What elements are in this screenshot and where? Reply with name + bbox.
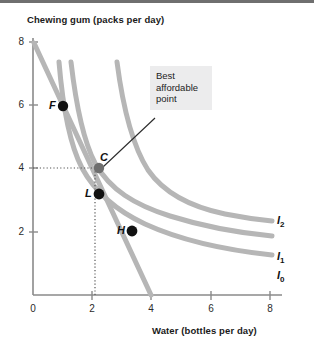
data-point-l [94,189,105,200]
callout-text: Best affordable point [156,70,207,105]
x-tick-label-2: 2 [84,303,100,314]
point-label-l: L [85,187,92,199]
x-tick-label-0: 0 [25,303,41,314]
y-tick-label-6: 6 [8,99,24,110]
curve-label-i2: I2 [277,214,285,229]
curve-label-i1-sub: 1 [280,256,284,265]
y-tick-label-8: 8 [8,36,24,47]
y-tick-label-4: 4 [8,162,24,173]
callout-best-affordable-point: Best affordable point [150,66,212,110]
data-point-f [58,101,68,111]
chart-canvas [0,0,314,348]
x-axis-title: Water (bottles per day) [152,325,257,336]
data-point-h [127,226,138,237]
point-label-c: C [100,151,108,163]
data-point-c [94,163,104,173]
y-tick-label-2: 2 [8,226,24,237]
curve-label-i0-sub: 0 [280,275,284,284]
point-label-f: F [49,99,56,111]
indifference-curve-figure: Chewing gum (packs per day) Water (bottl… [0,0,314,348]
y-axis-title: Chewing gum (packs per day) [27,14,164,25]
curve-label-i0: I0 [277,269,285,284]
curve-label-i2-sub: 2 [280,220,284,229]
budget-line [34,43,151,295]
x-tick-label-8: 8 [262,303,278,314]
curve-label-i1: I1 [277,250,285,265]
x-tick-label-4: 4 [143,303,159,314]
point-label-h: H [117,224,125,236]
x-tick-label-6: 6 [203,303,219,314]
